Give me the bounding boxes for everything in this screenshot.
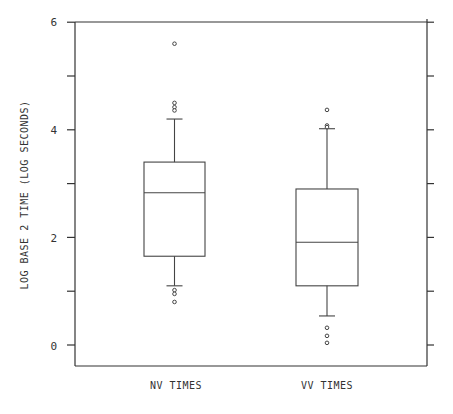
outlier-point — [173, 288, 177, 292]
outlier-point — [173, 42, 177, 46]
outlier-point — [325, 326, 329, 330]
y-tick-label-6: 6 — [50, 16, 57, 29]
outlier-point — [325, 334, 329, 338]
axes — [67, 19, 434, 366]
boxes — [144, 42, 358, 345]
outlier-point — [173, 109, 177, 113]
y-tick-label-2: 2 — [50, 232, 57, 245]
x-category-label-vv: VV TIMES — [301, 380, 353, 391]
iqr-box — [144, 162, 205, 256]
iqr-box — [296, 189, 358, 286]
outlier-point — [173, 292, 177, 296]
y-axis-label: LOG BASE 2 TIME (LOG SECONDS) — [19, 100, 30, 289]
y-tick-label-4: 4 — [50, 124, 57, 137]
x-category-label-nv: NV TIMES — [150, 380, 202, 391]
y-tick-label-0: 0 — [50, 340, 57, 353]
box-nv-times — [144, 42, 205, 304]
box-plot-chart: LOG BASE 2 TIME (LOG SECONDS) 6 4 2 0 NV… — [0, 0, 453, 414]
outlier-point — [325, 341, 329, 345]
outlier-point — [325, 125, 329, 129]
outlier-point — [173, 300, 177, 304]
outlier-point — [325, 108, 329, 112]
box-vv-times — [296, 108, 358, 345]
outlier-point — [173, 101, 177, 105]
